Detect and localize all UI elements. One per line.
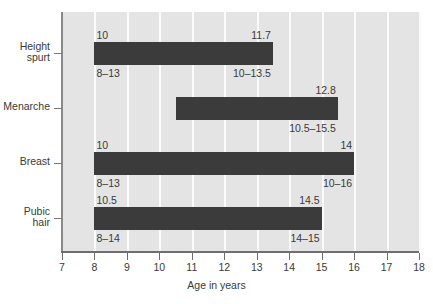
x-tick-label-8: 8 [79,261,109,273]
x-tick-10 [159,253,160,260]
gridline-17 [387,12,389,251]
x-tick-11 [192,253,193,260]
annotation-pubic-hair-range-end: 14–15 [290,232,319,244]
annotation-height-spurt-range-start: 8–13 [96,67,119,79]
x-tick-label-18: 18 [404,261,433,273]
bar-menarche [176,97,338,120]
bar-pubic-hair [94,207,321,230]
y-axis-line [61,12,63,251]
gridline-16 [354,12,356,251]
x-tick-16 [354,253,355,260]
y-axis-label-breast: Breast [0,156,50,168]
annotation-menarche-range-end: 10.5–15.5 [289,122,336,134]
annotation-height-spurt-mean-end: 11.7 [251,29,271,41]
y-tick-height-spurt [54,53,62,54]
x-tick-label-11: 11 [177,261,207,273]
x-tick-label-15: 15 [307,261,337,273]
bar-breast [94,152,354,175]
x-tick-label-14: 14 [274,261,304,273]
y-axis-label-height-spurt: Height spurt [0,41,50,64]
x-tick-13 [257,253,258,260]
gridline-18 [419,12,421,251]
tanner-stages-chart: 789101112131415161718 Height spurtMenarc… [0,0,433,304]
annotation-height-spurt-range-end: 10–13.5 [233,67,271,79]
annotation-breast-mean-end: 14 [340,139,352,151]
y-tick-menarche [54,108,62,109]
annotation-breast-mean-start: 10 [96,139,108,151]
y-tick-pubic-hair [54,218,62,219]
x-tick-label-12: 12 [209,261,239,273]
y-axis-label-menarche: Menarche [0,101,50,113]
annotation-breast-range-start: 8–13 [96,177,119,189]
annotation-menarche-mean-end: 12.8 [315,84,335,96]
x-tick-7 [62,253,63,260]
x-tick-label-7: 7 [47,261,77,273]
x-tick-14 [289,253,290,260]
x-tick-label-16: 16 [339,261,369,273]
x-tick-8 [94,253,95,260]
x-tick-label-17: 17 [372,261,402,273]
x-tick-label-9: 9 [112,261,142,273]
annotation-height-spurt-mean-start: 10 [96,29,108,41]
x-tick-9 [127,253,128,260]
x-tick-15 [322,253,323,260]
y-tick-breast [54,163,62,164]
annotation-pubic-hair-mean-end: 14.5 [299,194,319,206]
x-tick-17 [387,253,388,260]
annotation-pubic-hair-range-start: 8–14 [96,232,119,244]
x-axis-title: Age in years [0,279,433,291]
annotation-pubic-hair-mean-start: 10.5 [96,194,116,206]
plot-area [62,12,419,251]
x-axis-line [61,251,419,253]
annotation-breast-range-end: 10–16 [323,177,352,189]
x-tick-label-13: 13 [242,261,272,273]
x-tick-label-10: 10 [144,261,174,273]
bar-height-spurt [94,42,273,65]
y-axis-label-pubic-hair: Pubic hair [0,206,50,229]
x-tick-18 [419,253,420,260]
x-tick-12 [224,253,225,260]
